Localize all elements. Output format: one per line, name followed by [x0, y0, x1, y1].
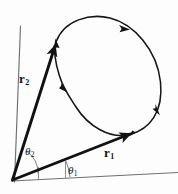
vector-r1-symbol: r — [104, 145, 110, 160]
angle-theta2-label: θ2 — [25, 146, 34, 159]
angle-theta2-subscript: 2 — [30, 150, 34, 159]
orbit-curve-group — [54, 16, 161, 136]
vector-r1-label: r1 — [104, 146, 114, 161]
figure-diagram: r2 r1 θ2 θ1 — [0, 0, 178, 194]
angle-theta1-subscript: 1 — [73, 169, 77, 178]
angle-theta1-label: θ1 — [68, 165, 77, 178]
orbit-curve — [55, 16, 161, 135]
vector-r2-label: r2 — [19, 72, 29, 87]
x-axis — [12, 173, 178, 182]
diagram-canvas — [0, 0, 178, 194]
vector-r1-subscript: 1 — [110, 152, 115, 161]
vector-r2-symbol: r — [19, 71, 25, 86]
vector-r2-subscript: 2 — [25, 78, 30, 87]
